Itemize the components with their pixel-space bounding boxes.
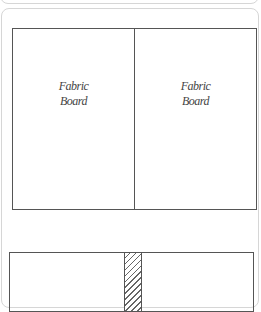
panel-label: Fabric Board (135, 79, 256, 109)
hatched-gap-strip (124, 252, 142, 312)
fabric-board-panel-right: Fabric Board (134, 29, 256, 209)
fabric-board-panel-left: Fabric Board (13, 29, 134, 209)
panel-label: Fabric Board (13, 79, 134, 109)
previous-card (0, 0, 259, 4)
board-gap-diagram (9, 252, 254, 312)
fabric-board-diagram: Fabric Board Fabric Board (12, 28, 257, 210)
